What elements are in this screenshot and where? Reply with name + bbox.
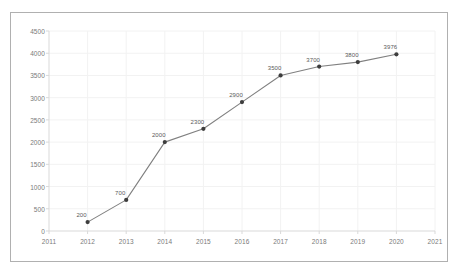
data-point-label: 200 (76, 212, 86, 218)
data-point-label: 3976 (384, 44, 398, 50)
data-point-label: 3500 (268, 65, 282, 71)
data-point-label: 2900 (229, 92, 243, 98)
chart-plot-area: 050010001500200025003000350040004500 201… (11, 13, 447, 261)
data-point-label: 2300 (191, 119, 205, 125)
data-point-label: 700 (115, 190, 125, 196)
data-point-label: 3800 (345, 52, 359, 58)
data-point-labels: 2007002000230029003500370038003976 (11, 13, 447, 261)
data-point-label: 3700 (306, 57, 320, 63)
chart-frame: 050010001500200025003000350040004500 201… (10, 12, 448, 262)
data-point-label: 2000 (152, 132, 166, 138)
